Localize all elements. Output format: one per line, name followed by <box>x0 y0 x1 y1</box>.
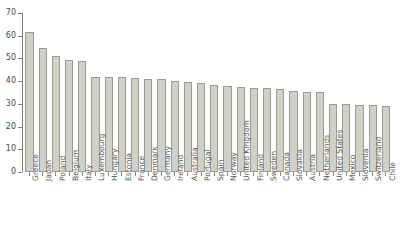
x-axis-label: Greece <box>32 154 40 181</box>
y-tick-label: 60 <box>6 30 16 41</box>
x-axis-label: Poland <box>59 156 67 181</box>
x-axis-label: Denmark <box>151 146 159 181</box>
bar-slot <box>208 13 221 172</box>
y-tick-label: 20 <box>6 121 16 132</box>
y-tick-label: 40 <box>6 75 16 86</box>
bar-chart: 010203040506070 GreeceJapanPolandBelgium… <box>0 0 411 250</box>
x-axis-label: Japan <box>45 160 53 181</box>
y-tick-label: 30 <box>6 98 16 109</box>
x-axis-label: United Kingdom <box>243 120 251 181</box>
x-axis-label: Finland <box>257 154 265 181</box>
x-tick-mark <box>293 172 294 176</box>
x-tick-mark <box>253 172 254 176</box>
x-tick-mark <box>55 172 56 176</box>
bar-slot <box>63 13 76 172</box>
x-axis-label: Ireland <box>177 155 185 181</box>
x-tick-mark <box>148 172 149 176</box>
x-axis-label: Canada <box>283 152 291 181</box>
y-axis-ticks: 010203040506070 <box>0 0 22 250</box>
y-tick-label: 0 <box>11 166 16 177</box>
bar-slot <box>129 13 142 172</box>
x-tick-mark <box>135 172 136 176</box>
x-axis-label: Norway <box>230 152 238 181</box>
bar-slot <box>274 13 287 172</box>
x-axis-label: Estonia <box>125 153 133 181</box>
x-tick-mark <box>346 172 347 176</box>
x-axis-label: Hungary <box>111 149 119 181</box>
y-tick-mark <box>18 172 22 173</box>
x-axis-label: Netherlands <box>323 135 331 181</box>
y-tick-label: 50 <box>6 52 16 63</box>
x-tick-mark <box>201 172 202 176</box>
bar-slot <box>221 13 234 172</box>
x-tick-mark <box>214 172 215 176</box>
x-axis-label: France <box>138 156 146 181</box>
x-axis-label: Spain <box>217 160 225 181</box>
x-tick-mark <box>161 172 162 176</box>
bar-slot <box>76 13 89 172</box>
x-tick-mark <box>29 172 30 176</box>
x-tick-mark <box>69 172 70 176</box>
bar <box>25 32 33 172</box>
x-tick-mark <box>385 172 386 176</box>
x-tick-mark <box>121 172 122 176</box>
y-tick-label: 10 <box>6 143 16 154</box>
x-axis-label: United States <box>336 130 344 181</box>
x-tick-mark <box>359 172 360 176</box>
bar-slot <box>49 13 62 172</box>
x-tick-mark <box>319 172 320 176</box>
x-axis-label: Sweden <box>270 151 278 181</box>
x-axis-label: Australia <box>191 147 199 181</box>
x-axis-label: Belgium <box>72 150 80 181</box>
y-tick-label: 70 <box>6 7 16 18</box>
x-tick-mark <box>227 172 228 176</box>
x-axis-label: Luxembourg <box>98 134 106 181</box>
x-axis-label: Chile <box>389 162 397 181</box>
x-tick-mark <box>82 172 83 176</box>
bar-slot <box>36 13 49 172</box>
x-axis-label: Portugal <box>204 150 212 181</box>
x-tick-mark <box>280 172 281 176</box>
bar-slot <box>23 13 36 172</box>
x-tick-mark <box>267 172 268 176</box>
bar <box>52 56 60 172</box>
x-tick-mark <box>333 172 334 176</box>
x-axis-label: Mexico <box>349 154 357 181</box>
x-axis-label: Italy <box>85 165 93 181</box>
x-axis-label: Slovenia <box>362 149 370 181</box>
x-axis-label: Germany <box>164 146 172 181</box>
x-tick-mark <box>187 172 188 176</box>
bar-slot <box>261 13 274 172</box>
x-tick-mark <box>95 172 96 176</box>
x-axis-label: Switzerland <box>375 137 383 181</box>
x-axis-label: Austria <box>309 154 317 181</box>
x-axis-label: Slovakia <box>296 149 304 181</box>
